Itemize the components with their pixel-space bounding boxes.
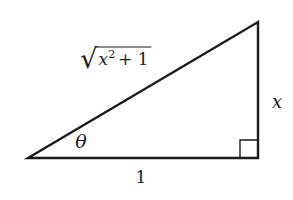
radicand: x2+ 1 (97, 47, 152, 69)
radicand-variable: x (99, 49, 109, 69)
opposite-side-label: x (272, 93, 282, 111)
triangle-outline (28, 22, 258, 158)
base-side-label: 1 (136, 169, 147, 186)
right-triangle-diagram: √ x2+ 1 x θ 1 (0, 0, 293, 200)
hypotenuse-label: √ x2+ 1 (80, 44, 151, 71)
radicand-exponent: 2 (108, 48, 115, 61)
radicand-plus-term: + 1 (118, 49, 148, 69)
right-angle-marker (240, 140, 257, 157)
angle-label: θ (75, 132, 86, 151)
triangle-figure (0, 0, 293, 200)
radical-sign: √ (80, 45, 97, 72)
